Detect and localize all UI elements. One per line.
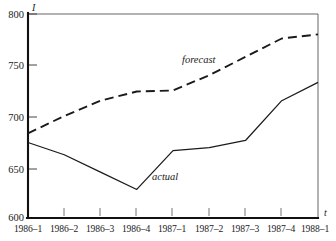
x-tick-label: 1986–3 — [86, 223, 114, 234]
y-tick-label: 700 — [8, 112, 24, 123]
y-axis-label: I — [31, 2, 36, 13]
y-tick-label: 800 — [8, 9, 24, 20]
y-tick-label: 650 — [8, 164, 24, 175]
x-axis-label: t — [324, 207, 327, 218]
y-tick-label: 600 — [8, 212, 24, 223]
x-tick-label: 1986–2 — [50, 223, 78, 234]
x-tick-label: 1988–1 — [301, 223, 329, 234]
x-tick-label: 1987–2 — [195, 223, 223, 234]
y-axis-tick-labels: 800 750 700 650 600 — [8, 9, 24, 223]
x-tick-label: 1986–4 — [122, 223, 150, 234]
forecast-series-line — [28, 34, 318, 133]
forecast-series-label: forecast — [182, 54, 217, 65]
x-axis-tick-labels: 1986–1 1986–2 1986–3 1986–4 1987–1 1987–… — [14, 223, 329, 234]
x-tick-label: 1987–1 — [158, 223, 186, 234]
x-axis-ticks — [64, 208, 281, 216]
chart-container: 800 750 700 650 600 I 1986–1 1986–2 1986… — [0, 0, 336, 241]
x-tick-label: 1987–4 — [267, 223, 295, 234]
actual-series-label: actual — [152, 171, 178, 182]
x-tick-label: 1987–3 — [231, 223, 259, 234]
y-tick-label: 750 — [8, 60, 24, 71]
x-tick-label: 1986–1 — [14, 223, 42, 234]
line-chart: 800 750 700 650 600 I 1986–1 1986–2 1986… — [0, 0, 336, 241]
